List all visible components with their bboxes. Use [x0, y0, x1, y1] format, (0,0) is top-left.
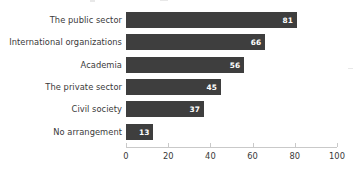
bar-row: The public sector 81	[0, 12, 354, 28]
category-label: No arrangement	[53, 127, 122, 137]
bar-value-label: 81	[282, 16, 293, 25]
x-axis-tick-label: 60	[247, 151, 258, 161]
bar-value-label: 13	[139, 127, 150, 136]
x-axis-tick-label: 0	[123, 151, 128, 161]
bar-row: Civil society 37	[0, 101, 354, 117]
x-axis-tick	[295, 143, 296, 147]
bar-the-public-sector[interactable]: 81	[126, 12, 297, 28]
bar-no-arrangement[interactable]: 13	[126, 124, 153, 140]
bar-chart: The public sector 81 International organ…	[0, 0, 354, 173]
x-axis-tick	[126, 143, 127, 147]
bar-row: No arrangement 13	[0, 124, 354, 140]
bar-row: Academia 56	[0, 57, 354, 73]
bar-value-label: 56	[230, 60, 241, 69]
bar-value-label: 45	[207, 82, 218, 91]
category-label: Academia	[81, 60, 122, 70]
category-label: The private sector	[45, 82, 122, 92]
x-axis-tick-label: 80	[290, 151, 301, 161]
bar-value-label: 37	[190, 105, 201, 114]
x-axis-tick	[337, 143, 338, 147]
bar-row: International organizations 66	[0, 34, 354, 50]
bar-row: The private sector 45	[0, 79, 354, 95]
x-axis-tick-label: 20	[163, 151, 174, 161]
x-axis-tick	[253, 143, 254, 147]
category-label: Civil society	[72, 104, 122, 114]
bar-civil-society[interactable]: 37	[126, 101, 204, 117]
x-axis-tick-label: 100	[329, 151, 345, 161]
x-axis-line	[126, 147, 337, 148]
category-label: International organizations	[9, 37, 122, 47]
bar-the-private-sector[interactable]: 45	[126, 79, 221, 95]
category-label: The public sector	[50, 15, 122, 25]
bar-international-organizations[interactable]: 66	[126, 34, 265, 50]
x-axis-tick	[210, 143, 211, 147]
x-axis-tick	[168, 143, 169, 147]
bar-value-label: 66	[251, 38, 262, 47]
bar-academia[interactable]: 56	[126, 57, 244, 73]
x-axis-tick-label: 40	[205, 151, 216, 161]
